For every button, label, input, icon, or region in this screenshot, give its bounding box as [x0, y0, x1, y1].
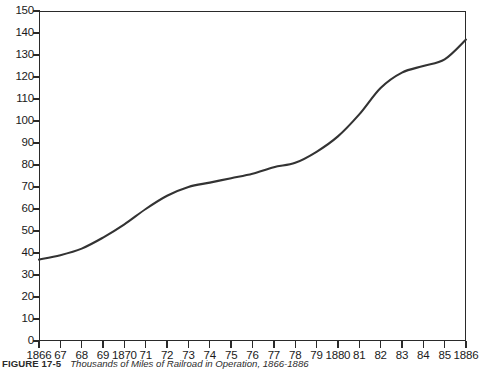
x-tick-mark-77: [273, 341, 274, 348]
x-tick-mark-85: [444, 341, 445, 348]
x-tick-label-1870: 1870: [112, 350, 137, 362]
x-tick-mark-78: [295, 341, 296, 348]
y-tick-mark-80: [33, 164, 40, 165]
y-tick-mark-10: [33, 318, 40, 319]
x-tick-mark-82: [380, 341, 381, 348]
y-tick-label-20: 20: [0, 291, 34, 303]
x-tick-label-85: 85: [438, 350, 450, 362]
figure-container: 0102030405060708090100110120130140150 FI…: [0, 0, 483, 369]
x-tick-label-74: 74: [204, 350, 216, 362]
x-tick-label-1866: 1866: [27, 350, 52, 362]
x-tick-label-67: 67: [54, 350, 66, 362]
x-tick-label-81: 81: [353, 350, 365, 362]
x-tick-label-78: 78: [289, 350, 301, 362]
x-tick-mark-73: [188, 341, 189, 348]
y-tick-mark-50: [33, 230, 40, 231]
y-tick-mark-100: [33, 120, 40, 121]
y-tick-label-70: 70: [0, 181, 34, 193]
x-tick-label-69: 69: [97, 350, 109, 362]
y-tick-label-150: 150: [0, 5, 34, 17]
y-tick-mark-120: [33, 76, 40, 77]
x-tick-mark-81: [359, 341, 360, 348]
y-tick-label-120: 120: [0, 71, 34, 83]
x-tick-label-1886: 1886: [454, 350, 479, 362]
x-tick-label-83: 83: [396, 350, 408, 362]
y-tick-label-50: 50: [0, 225, 34, 237]
y-tick-label-90: 90: [0, 137, 34, 149]
y-tick-mark-150: [33, 10, 40, 11]
y-tick-mark-40: [33, 252, 40, 253]
y-axis: 0102030405060708090100110120130140150: [0, 0, 34, 369]
y-tick-mark-70: [33, 186, 40, 187]
x-tick-mark-1880: [337, 341, 338, 348]
x-tick-mark-1866: [38, 341, 39, 348]
x-tick-label-73: 73: [182, 350, 194, 362]
x-tick-mark-76: [252, 341, 253, 348]
x-tick-label-71: 71: [140, 350, 152, 362]
x-tick-mark-67: [60, 341, 61, 348]
x-tick-mark-72: [166, 341, 167, 348]
x-tick-mark-79: [316, 341, 317, 348]
x-tick-label-79: 79: [310, 350, 322, 362]
x-tick-label-1880: 1880: [325, 350, 350, 362]
x-tick-label-72: 72: [161, 350, 173, 362]
x-tick-mark-75: [230, 341, 231, 348]
x-tick-mark-84: [423, 341, 424, 348]
x-tick-mark-74: [209, 341, 210, 348]
x-tick-label-76: 76: [246, 350, 258, 362]
y-tick-label-40: 40: [0, 247, 34, 259]
x-tick-mark-1870: [124, 341, 125, 348]
x-tick-label-68: 68: [75, 350, 87, 362]
y-tick-label-100: 100: [0, 115, 34, 127]
y-tick-label-130: 130: [0, 49, 34, 61]
x-tick-mark-71: [145, 341, 146, 348]
x-tick-label-84: 84: [417, 350, 429, 362]
y-tick-label-10: 10: [0, 313, 34, 325]
y-tick-mark-140: [33, 32, 40, 33]
x-tick-mark-68: [81, 341, 82, 348]
y-tick-label-30: 30: [0, 269, 34, 281]
y-tick-label-140: 140: [0, 27, 34, 39]
y-tick-mark-110: [33, 98, 40, 99]
plot-area: [39, 11, 466, 341]
y-tick-mark-130: [33, 54, 40, 55]
x-tick-mark-1886: [465, 341, 466, 348]
y-tick-mark-20: [33, 296, 40, 297]
y-tick-label-60: 60: [0, 203, 34, 215]
y-tick-label-80: 80: [0, 159, 34, 171]
y-tick-label-0: 0: [0, 335, 34, 347]
x-tick-label-82: 82: [374, 350, 386, 362]
y-tick-mark-60: [33, 208, 40, 209]
x-tick-label-77: 77: [268, 350, 280, 362]
x-tick-mark-69: [102, 341, 103, 348]
x-tick-mark-83: [401, 341, 402, 348]
y-tick-mark-30: [33, 274, 40, 275]
figure-caption: FIGURE 17-5Thousands of Miles of Railroa…: [2, 359, 481, 369]
y-tick-mark-90: [33, 142, 40, 143]
y-tick-label-110: 110: [0, 93, 34, 105]
x-tick-label-75: 75: [225, 350, 237, 362]
